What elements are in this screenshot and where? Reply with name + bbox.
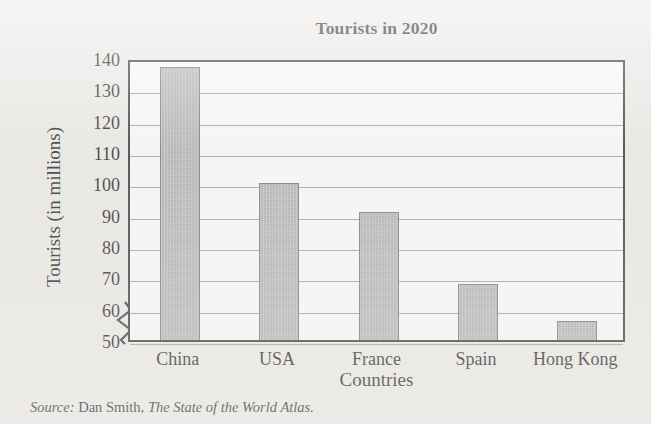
source-work-title: The State of the World Atlas. (148, 399, 314, 415)
x-axis-tick-label: China (156, 349, 199, 370)
bar-usa (259, 183, 299, 340)
bar-france (359, 212, 399, 340)
source-author: Dan Smith, (75, 399, 148, 415)
bar-hong-kong (557, 321, 597, 340)
bar-china (160, 67, 200, 340)
gridline (130, 344, 623, 345)
y-axis-tick-label: 80 (64, 239, 120, 257)
x-axis-tick-label: France (352, 349, 401, 370)
y-axis-tick-label: 120 (64, 114, 120, 132)
x-axis-title: Countries (128, 369, 625, 391)
source-label: Source: (30, 399, 75, 415)
y-axis-tick-label: 90 (64, 208, 120, 226)
y-axis-tick-label: 130 (64, 82, 120, 100)
bar-chart-figure: Tourists in 2020 Tourists (in millions) … (0, 0, 651, 424)
plot-area (128, 60, 625, 342)
source-note: Source: Dan Smith, The State of the Worl… (30, 399, 314, 416)
bar-group (130, 62, 623, 340)
x-axis-tick-label: Spain (455, 349, 496, 370)
y-axis-tick-label: 70 (64, 270, 120, 288)
y-axis-tick-label: 100 (64, 176, 120, 194)
y-axis-tick-label: 140 (64, 51, 120, 69)
y-axis-tick-label: 110 (64, 145, 120, 163)
x-axis-tick-label: Hong Kong (533, 349, 618, 370)
x-axis-tick-label: USA (259, 349, 295, 370)
bar-spain (458, 284, 498, 340)
